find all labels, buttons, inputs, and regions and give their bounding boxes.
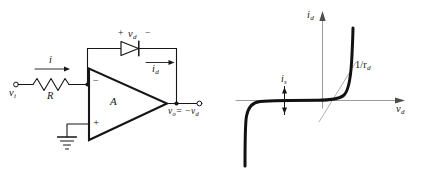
opamp-inverting-sign: − [93,76,99,86]
saturation-current-label: is [281,74,287,84]
diode-current-arrow-head [169,60,175,65]
diode-iv-curve [245,28,353,166]
diode-current-label: id [152,64,159,75]
x-axis-label: vd [396,104,405,115]
output-terminal-node [197,101,202,106]
diode-minus-sign: − [145,29,150,39]
input-voltage-label: vi [9,88,16,99]
opamp-noninverting-sign: + [93,117,99,128]
opamp-gain-label: A [110,96,117,107]
input-terminal-node [14,82,19,87]
diode-iv-characteristic-panel: id vd 1/rd is [214,0,427,186]
wire-noninverting-to-ground [67,124,89,137]
figure-root: vi R i − + A + vd − id vo= −vd [0,0,427,186]
output-voltage-label: vo= −vd [168,107,199,117]
diode-voltage-label: vd [128,29,137,40]
current-i-arrow-head [64,67,70,72]
resistor-label: R [47,91,53,102]
saturation-marker-arrowhead-up [282,87,287,94]
y-axis-arrowhead [319,11,325,21]
diode-triangle [121,42,139,56]
log-amplifier-circuit-panel: vi R i − + A + vd − id vo= −vd [0,0,214,186]
output-junction-dot [174,101,178,105]
opamp-triangle [89,69,167,141]
resistor-R [33,79,69,91]
slope-annotation-label: 1/rd [355,60,371,71]
y-axis-label: id [307,10,314,21]
current-i-label: i [49,55,52,66]
diode-plus-sign: + [118,29,123,39]
saturation-marker-arrowhead-down [282,108,287,115]
